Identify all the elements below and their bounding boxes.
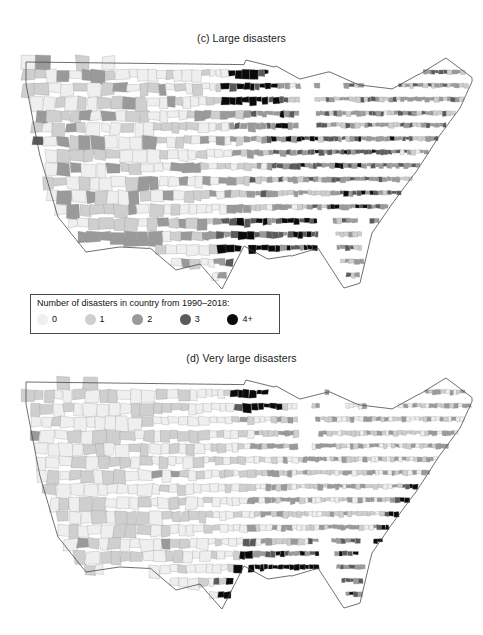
county-polygons-c xyxy=(21,55,469,281)
legend-title-c: Number of disasters in country from 1990… xyxy=(37,298,230,308)
panel-title-c: (c) Large disasters xyxy=(0,32,483,44)
legend-label: 2 xyxy=(147,314,152,325)
legend-swatch-icon xyxy=(180,314,191,325)
legend-label: 0 xyxy=(52,314,57,325)
us-county-choropleth-map-c xyxy=(0,48,483,293)
legend-swatch-icon xyxy=(85,314,96,325)
us-county-choropleth-map-d xyxy=(0,368,483,613)
panel-very-large-disasters: (d) Very large disasters Number of disas… xyxy=(0,340,483,635)
legend-label: 1 xyxy=(100,314,105,325)
legend-swatch-icon xyxy=(37,314,48,325)
panel-large-disasters: (c) Large disasters Number of disasters … xyxy=(0,0,483,340)
map-svg-d xyxy=(0,368,483,613)
legend-item-0: 0 xyxy=(37,314,85,325)
panel-title-d: (d) Very large disasters xyxy=(0,352,483,364)
legend-item-2: 2 xyxy=(132,314,180,325)
legend-item-3: 3 xyxy=(180,314,228,325)
legend-item-4plus: 4+ xyxy=(227,314,275,325)
legend-swatch-icon xyxy=(132,314,143,325)
legend-swatch-icon xyxy=(227,314,238,325)
legend-items-c: 01234+ xyxy=(37,314,275,325)
legend-label: 3 xyxy=(195,314,200,325)
legend-c: Number of disasters in country from 1990… xyxy=(30,294,280,334)
map-svg-c xyxy=(0,48,483,293)
legend-label: 4+ xyxy=(242,314,252,325)
county-polygons-d xyxy=(21,376,471,598)
legend-item-1: 1 xyxy=(85,314,133,325)
